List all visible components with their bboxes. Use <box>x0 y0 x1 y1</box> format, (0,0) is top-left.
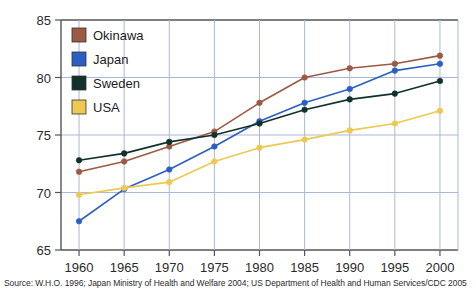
data-point-sweden <box>347 97 353 103</box>
data-point-japan <box>437 61 443 67</box>
data-point-sweden <box>212 132 218 138</box>
data-point-usa <box>347 128 353 134</box>
data-point-sweden <box>166 139 172 145</box>
data-point-usa <box>121 185 127 191</box>
data-point-usa <box>212 159 218 165</box>
legend-swatch-okinawa <box>72 28 86 42</box>
data-point-sweden <box>121 151 127 157</box>
x-axis-tick-label: 1975 <box>200 260 229 275</box>
data-point-japan <box>212 144 218 150</box>
data-point-sweden <box>257 121 263 127</box>
data-point-okinawa <box>76 169 82 175</box>
data-point-usa <box>437 108 443 114</box>
x-axis-tick-label: 1965 <box>110 260 139 275</box>
chart-plot-area: 6570758085196019651970197519801985199019… <box>0 0 476 289</box>
y-axis-tick-label: 80 <box>37 71 51 86</box>
data-point-usa <box>392 121 398 127</box>
data-point-sweden <box>76 158 82 164</box>
data-point-okinawa <box>437 53 443 59</box>
y-axis-tick-label: 75 <box>37 128 51 143</box>
legend-swatch-japan <box>72 52 86 66</box>
data-point-usa <box>302 137 308 143</box>
data-point-usa <box>76 192 82 198</box>
y-axis-tick-label: 65 <box>37 243 51 258</box>
x-axis-tick-label: 1995 <box>380 260 409 275</box>
legend-label-sweden: Sweden <box>93 76 140 91</box>
legend-label-okinawa: Okinawa <box>93 28 144 43</box>
data-point-sweden <box>437 78 443 84</box>
data-point-okinawa <box>257 100 263 106</box>
data-point-okinawa <box>121 159 127 165</box>
x-axis-tick-label: 1990 <box>335 260 364 275</box>
legend-label-usa: USA <box>93 100 120 115</box>
data-point-usa <box>166 179 172 185</box>
source-note: Source: W.H.O. 1996; Japan Ministry of H… <box>4 278 467 288</box>
x-axis-tick-label: 1980 <box>245 260 274 275</box>
x-axis-tick-label: 1985 <box>290 260 319 275</box>
data-point-japan <box>166 167 172 173</box>
data-point-sweden <box>302 107 308 113</box>
data-point-japan <box>76 218 82 224</box>
data-point-okinawa <box>302 75 308 81</box>
data-point-japan <box>392 68 398 74</box>
data-point-japan <box>302 100 308 106</box>
data-point-sweden <box>392 91 398 97</box>
x-axis-tick-label: 1970 <box>155 260 184 275</box>
legend-swatch-sweden <box>72 76 86 90</box>
x-axis-tick-label: 1960 <box>65 260 94 275</box>
life-expectancy-line-chart: 6570758085196019651970197519801985199019… <box>0 0 476 289</box>
legend-swatch-usa <box>72 100 86 114</box>
x-axis-tick-label: 2000 <box>425 260 454 275</box>
data-point-japan <box>347 86 353 92</box>
data-point-okinawa <box>347 66 353 72</box>
data-point-usa <box>257 145 263 151</box>
data-point-okinawa <box>392 61 398 67</box>
y-axis-tick-label: 85 <box>37 13 51 28</box>
legend-label-japan: Japan <box>93 52 128 67</box>
y-axis-tick-label: 70 <box>37 186 51 201</box>
